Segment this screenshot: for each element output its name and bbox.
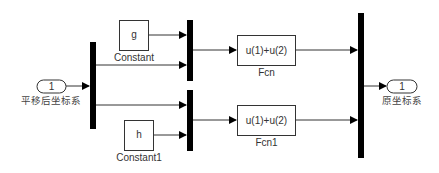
fcn-label: Fcn — [258, 67, 275, 78]
constant1-block[interactable]: h — [125, 121, 154, 151]
fcn1-block[interactable]: u(1)+u(2) — [238, 106, 296, 136]
constant1-value: h — [136, 129, 142, 140]
inport-label: 平移后坐标系 — [21, 95, 81, 106]
mux-top-block[interactable] — [187, 20, 193, 81]
constant-block[interactable]: g — [120, 21, 149, 51]
mux-bottom-block[interactable] — [187, 90, 193, 151]
diagram-canvas: 1 平移后坐标系 g Constant h Constant1 u(1)+u(2… — [0, 0, 439, 173]
constant-label: Constant — [114, 52, 154, 63]
outport-block[interactable]: 1 — [387, 80, 417, 93]
constant1-label: Constant1 — [116, 152, 162, 163]
fcn-expression: u(1)+u(2) — [246, 45, 287, 56]
inport-number: 1 — [49, 81, 55, 92]
fcn-block[interactable]: u(1)+u(2) — [238, 36, 296, 66]
constant-value: g — [131, 29, 137, 40]
outport-label: 原坐标系 — [382, 95, 422, 106]
demux-block[interactable] — [90, 42, 96, 129]
inport-block[interactable]: 1 — [37, 80, 66, 93]
fcn1-label: Fcn1 — [255, 137, 278, 148]
outport-number: 1 — [399, 81, 405, 92]
fcn1-expression: u(1)+u(2) — [246, 115, 287, 126]
mux-out-block[interactable] — [358, 13, 364, 158]
